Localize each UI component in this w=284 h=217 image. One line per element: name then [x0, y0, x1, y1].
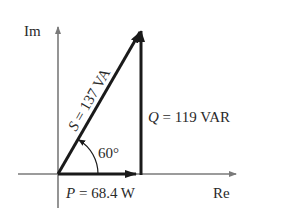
imaginary-axis-label: Im	[24, 23, 41, 39]
real-power-symbol: P	[65, 185, 75, 201]
real-power-value: 68.4 W	[91, 185, 136, 201]
angle-arc	[79, 140, 98, 174]
angle-label: 60°	[98, 145, 119, 161]
reactive-power-symbol: Q	[148, 109, 159, 125]
power-triangle-diagram: Im Re 60° P = 68.4 W Q = 119 VAR S = 137…	[0, 0, 284, 217]
real-power-label: P = 68.4 W	[65, 185, 136, 201]
reactive-power-value: 119 VAR	[175, 109, 230, 125]
reactive-power-label: Q = 119 VAR	[148, 109, 230, 125]
real-power-eq: =	[75, 185, 91, 201]
reactive-power-eq: =	[159, 109, 175, 125]
real-axis-label: Re	[213, 185, 230, 201]
